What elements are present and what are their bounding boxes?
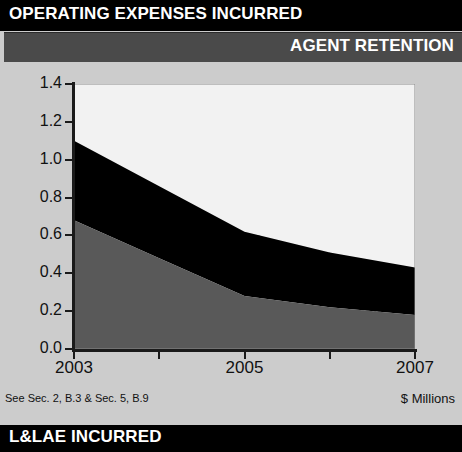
footer-title: L&LAE INCURRED [9, 427, 162, 447]
y-axis-tick [65, 197, 74, 199]
y-axis-tick [65, 310, 74, 312]
chart-page: OPERATING EXPENSES INCURRED AGENT RETENT… [0, 0, 462, 452]
units-label: $ Millions [401, 391, 455, 406]
y-axis-label: 1.0 [14, 150, 62, 168]
x-axis-label: 2003 [44, 358, 104, 378]
y-axis-tick [65, 272, 74, 274]
x-axis-label: 2007 [385, 358, 445, 378]
x-axis-tick [329, 350, 331, 359]
y-axis-label: 0.6 [14, 225, 62, 243]
y-axis-label: 1.2 [14, 112, 62, 130]
y-axis-label: 0.2 [14, 301, 62, 319]
x-axis-tick [158, 350, 160, 359]
page-title: OPERATING EXPENSES INCURRED [9, 4, 302, 24]
stacked-area-svg [74, 84, 415, 349]
source-reference-note: See Sec. 2, B.3 & Sec. 5, B.9 [5, 392, 149, 404]
y-axis-label: 0.8 [14, 188, 62, 206]
chart-title: AGENT RETENTION [290, 36, 454, 56]
y-axis-label: 0.4 [14, 263, 62, 281]
subheader-bar: AGENT RETENTION [4, 32, 462, 63]
chart-container: 0.00.20.40.60.81.01.21.4 200320052007 Se… [0, 62, 462, 425]
y-axis-tick [65, 83, 74, 85]
y-axis-label: 0.0 [14, 339, 62, 357]
y-axis-tick [65, 234, 74, 236]
footer-bar: L&LAE INCURRED [0, 425, 462, 452]
plot-area [74, 84, 415, 349]
y-axis-tick [65, 159, 74, 161]
header-bar: OPERATING EXPENSES INCURRED [0, 0, 462, 31]
x-axis-label: 2005 [215, 358, 275, 378]
y-axis-tick [65, 121, 74, 123]
y-axis-label: 1.4 [14, 74, 62, 92]
